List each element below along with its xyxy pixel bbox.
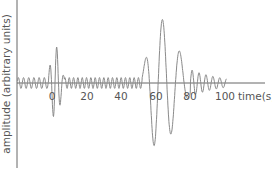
seismogram-chart: 0 20 40 60 80 100 time(s) amplitude (arb… — [0, 0, 272, 170]
x-tick-0: 0 — [49, 90, 56, 102]
x-tick-40: 40 — [114, 90, 127, 102]
x-tick-60: 60 — [149, 90, 162, 102]
y-axis-label: amplitude (arbitrary units) — [0, 14, 12, 153]
x-tick-80: 80 — [183, 90, 196, 102]
x-tick-100: 100 — [215, 90, 235, 102]
x-tick-20: 20 — [80, 90, 93, 102]
x-axis-label: time(s) — [238, 90, 272, 102]
